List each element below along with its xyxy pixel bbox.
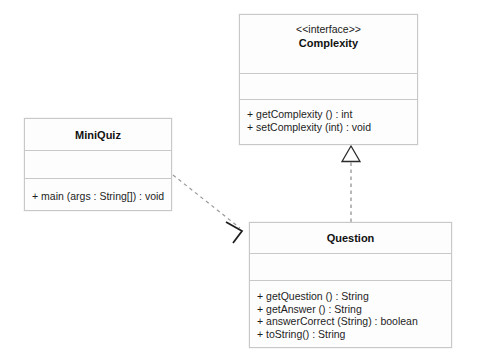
operation-item: + toString() : String: [257, 328, 445, 341]
operation-item: + answerCorrect (String) : boolean: [257, 315, 445, 328]
realization-question-complexity: [342, 146, 360, 222]
operation-item: + setComplexity (int) : void: [247, 121, 411, 134]
class-box-complexity[interactable]: <<interface>> Complexity + getComplexity…: [239, 14, 418, 145]
uml-class-diagram: <<interface>> Complexity + getComplexity…: [0, 0, 477, 360]
class-box-miniquiz[interactable]: MiniQuiz + main (args : String[]) : void: [24, 118, 172, 211]
class-operations-complexity: + getComplexity () : int + setComplexity…: [240, 99, 417, 146]
hollow-triangle-arrowhead-icon: [342, 146, 360, 162]
class-name-complexity: Complexity: [244, 36, 413, 51]
class-attributes-miniquiz: [25, 150, 171, 178]
dependency-miniquiz-question: [173, 175, 242, 243]
class-box-question[interactable]: Question + getQuestion () : String + get…: [249, 222, 452, 348]
class-attributes-question: [250, 253, 451, 280]
class-name-question: Question: [254, 231, 447, 246]
class-header-question: Question: [250, 223, 451, 253]
class-operations-miniquiz: + main (args : String[]) : void: [25, 178, 171, 212]
operation-item: + getAnswer () : String: [257, 303, 445, 316]
operation-item: + getComplexity () : int: [247, 108, 411, 121]
dependency-line: [173, 175, 240, 228]
operation-item: + main (args : String[]) : void: [32, 190, 165, 203]
class-attributes-complexity: [240, 73, 417, 99]
class-stereotype-complexity: <<interface>>: [244, 22, 413, 36]
class-header-miniquiz: MiniQuiz: [25, 119, 171, 150]
open-arrowhead-icon: [226, 222, 242, 243]
class-operations-question: + getQuestion () : String + getAnswer ()…: [250, 280, 451, 349]
class-header-complexity: <<interface>> Complexity: [240, 15, 417, 73]
class-name-miniquiz: MiniQuiz: [29, 128, 167, 143]
operation-item: + getQuestion () : String: [257, 290, 445, 303]
